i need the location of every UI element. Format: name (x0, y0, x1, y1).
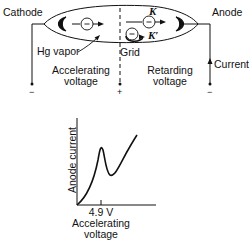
electron-k-icon (126, 16, 166, 28)
grid-label: Grid (120, 47, 140, 58)
tube-envelope (44, 5, 198, 42)
hg-vapor-label: Hg vapor (37, 46, 80, 57)
y-axis-label: Anode current (66, 120, 78, 200)
x-axis-label: Accelerating voltage (66, 218, 136, 240)
energy-k-label: K (149, 6, 156, 17)
franck-hertz-diagram (0, 0, 252, 242)
anode-electrode (176, 17, 184, 31)
anode-terminal-sign: − (207, 88, 212, 97)
accelerating-voltage-label: Accelerating voltage (46, 65, 116, 87)
current-arrow-icon (208, 58, 213, 64)
anode-current-curve (77, 135, 137, 205)
electron-icon (72, 18, 104, 30)
cathode-label: Cathode (3, 7, 43, 18)
cathode-electrode (59, 17, 67, 31)
anode-label: Anode (212, 7, 242, 18)
retarding-voltage-label: Retarding voltage (140, 65, 200, 87)
grid-terminal-sign: + (117, 88, 122, 97)
cathode-terminal-sign: − (29, 88, 34, 97)
electron-k-prime-icon (126, 28, 145, 41)
energy-k-prime-label: K′ (148, 30, 158, 41)
current-label: Current (214, 59, 249, 70)
